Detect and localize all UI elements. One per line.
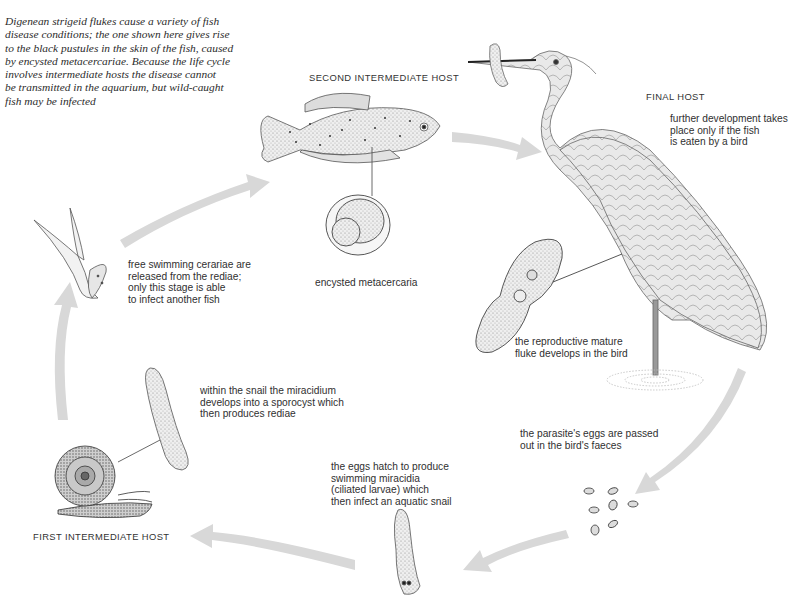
mature-fluke-note: the reproductive mature fluke develops i…	[515, 336, 628, 359]
arrow-snail-to-cercaria	[54, 282, 78, 420]
eggs-note: the parasite's eggs are passed out in th…	[520, 428, 658, 451]
cercariae-note: free swimming cerariae are released from…	[128, 259, 251, 305]
arrow-eggs-to-miracidium	[463, 530, 569, 572]
sporocyst-illustration	[118, 368, 188, 470]
miracidia-note: the eggs hatch to produce swimming mirac…	[331, 461, 452, 507]
metacercaria-label: encysted metacercaria	[315, 277, 418, 289]
sporocyst-note: within the snail the miracidium develops…	[200, 385, 344, 420]
arrow-cercaria-to-fish	[120, 174, 270, 248]
arrow-fish-to-bird	[452, 132, 542, 160]
snail-illustration	[55, 446, 152, 518]
first-intermediate-host-label: FIRST INTERMEDIATE HOST	[33, 531, 169, 542]
final-host-label: FINAL HOST	[646, 91, 705, 102]
intro-description: Digenean strigeid flukes cause a variety…	[5, 15, 305, 108]
eggs-illustration	[584, 486, 638, 535]
metacercaria-illustration	[326, 195, 390, 255]
second-intermediate-host-label: SECOND INTERMEDIATE HOST	[309, 72, 459, 83]
arrow-miracidium-to-snail	[190, 524, 355, 570]
fish-illustration	[261, 93, 440, 196]
final-host-note: further development takes place only if …	[670, 113, 788, 148]
miracidium-illustration	[394, 509, 420, 594]
